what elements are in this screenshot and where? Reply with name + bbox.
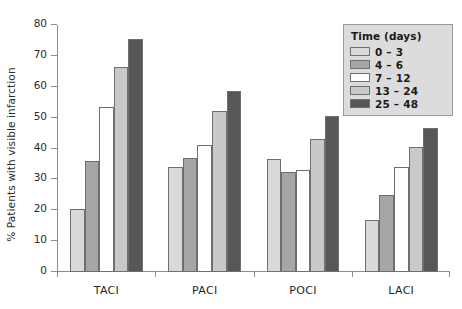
bar (310, 139, 325, 272)
y-axis-tick-label: 80 (34, 17, 47, 29)
legend-swatch (350, 99, 370, 108)
x-axis-category-label: LACI (365, 284, 438, 297)
legend-entry: 25 – 48 (350, 97, 446, 110)
bar (70, 209, 85, 272)
bar (128, 39, 143, 272)
bar (114, 67, 129, 272)
y-axis-tick: 20 (51, 209, 57, 210)
y-axis-tick: 40 (51, 148, 57, 149)
bar (168, 167, 183, 272)
x-axis-tick (155, 272, 156, 277)
legend-entry: 7 – 12 (350, 71, 446, 84)
legend-entry: 0 – 3 (350, 45, 446, 58)
x-axis-category-label: POCI (267, 284, 340, 297)
legend-label: 7 – 12 (375, 72, 411, 84)
bar-chart-figure: % Patients with visible infarction 01020… (0, 0, 462, 309)
y-axis-label: % Patients with visible infarction (0, 0, 22, 309)
bar (99, 107, 114, 272)
y-axis-tick-label: 60 (34, 79, 47, 91)
y-axis-tick: 30 (51, 178, 57, 179)
bar (325, 116, 340, 272)
x-axis-category-label: PACI (168, 284, 241, 297)
bar (281, 172, 296, 272)
legend-entry: 4 – 6 (350, 58, 446, 71)
legend-swatch (350, 73, 370, 82)
legend-label: 25 – 48 (375, 98, 418, 110)
y-axis-tick-label: 20 (34, 202, 47, 214)
x-axis-tick (57, 272, 58, 277)
bar-group: PACI (168, 25, 241, 272)
bar (227, 91, 242, 272)
bar (212, 111, 227, 272)
legend-label: 0 – 3 (375, 46, 403, 58)
x-axis-tick (254, 272, 255, 277)
legend-entries: 0 – 34 – 67 – 1213 – 2425 – 48 (350, 45, 446, 110)
bar (197, 145, 212, 272)
y-axis-tick: 80 (51, 24, 57, 25)
bar (365, 220, 380, 272)
y-axis-tick-label: 30 (34, 171, 47, 183)
y-axis-tick: 60 (51, 86, 57, 87)
y-axis-tick-label: 70 (34, 48, 47, 60)
legend: Time (days) 0 – 34 – 67 – 1213 – 2425 – … (343, 24, 453, 116)
bar (183, 158, 198, 272)
legend-entry: 13 – 24 (350, 84, 446, 97)
legend-label: 13 – 24 (375, 85, 418, 97)
x-axis-tick (449, 272, 450, 277)
bar (85, 161, 100, 272)
bar (267, 159, 282, 272)
legend-swatch (350, 60, 370, 69)
y-axis-tick-label: 40 (34, 141, 47, 153)
y-axis-tick: 70 (51, 55, 57, 56)
legend-swatch (350, 86, 370, 95)
bar (394, 167, 409, 272)
y-axis-tick: 10 (51, 240, 57, 241)
y-axis-tick: 50 (51, 117, 57, 118)
legend-title: Time (days) (351, 30, 446, 42)
x-axis-category-label: TACI (70, 284, 143, 297)
bar (296, 170, 311, 272)
y-axis-line (57, 25, 58, 272)
legend-label: 4 – 6 (375, 59, 403, 71)
y-axis-tick-label: 50 (34, 110, 47, 122)
y-axis-tick-label: 0 (40, 264, 47, 276)
legend-swatch (350, 47, 370, 56)
bar (379, 195, 394, 272)
y-axis-tick-label: 10 (34, 233, 47, 245)
x-axis-tick (352, 272, 353, 277)
bar-group: POCI (267, 25, 340, 272)
bar (409, 147, 424, 272)
bar (423, 128, 438, 272)
bar-group: TACI (70, 25, 143, 272)
